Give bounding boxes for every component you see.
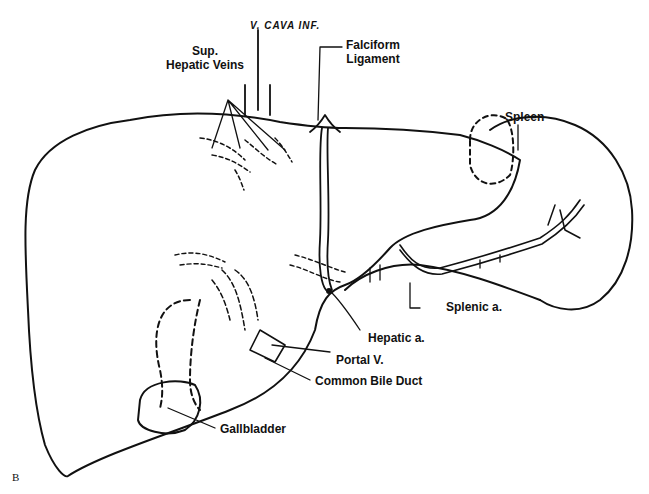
portal-vein-dashed [212,270,258,330]
label-common-bile-duct: Common Bile Duct [315,374,422,388]
label-portal-v: Portal V. [336,353,384,367]
splenic-branches [548,205,580,238]
label-sup-hepatic-veins: Sup. Hepatic Veins [166,44,244,72]
anatomy-diagram: V. CAVA INF. Sup. Hepatic Veins Falcifor… [0,0,649,494]
label-vena-cava: V. CAVA INF. [250,19,320,33]
stomach-lower [345,265,540,300]
label-spleen: Spleen [505,110,544,124]
vena-cava [245,30,270,115]
gallbladder-dashed [156,300,190,410]
label-gallbladder: Gallbladder [220,422,286,436]
label-hepatic-a: Hepatic a. [368,331,425,345]
panel-letter: B [12,470,19,484]
spleen-dashed [470,115,513,183]
label-falciform-ligament: Falciform Ligament [346,38,400,66]
hepatic-veins-dashed [200,138,292,190]
diagram-drawing [0,0,649,494]
label-splenic-a: Splenic a. [446,300,502,314]
